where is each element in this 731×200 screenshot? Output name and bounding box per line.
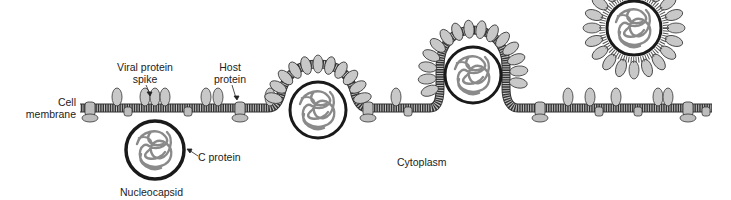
viral-spike-label-line2: spike [115,73,175,85]
cell-membrane-label-line2: membrane [20,108,76,120]
virus-budding-diagram [0,0,731,200]
nucleocapsid [126,121,184,179]
cell-membrane-label: Cell membrane [20,96,76,120]
budding-virion-2 [445,47,501,103]
viral-spike-label-line1: Viral protein [115,61,175,73]
viral-protein-spike-label: Viral protein spike [115,61,175,85]
cell-membrane-label-line1: Cell [20,96,76,108]
host-protein-label-line2: protein [210,73,250,85]
cytoplasm-label: Cytoplasm [397,156,447,168]
host-protein-label-line1: Host [210,61,250,73]
released-virion [583,0,685,79]
nucleocapsid-label: Nucleocapsid [120,186,183,198]
viral-protein-spikes [112,88,673,106]
host-protein-label: Host protein [210,61,250,85]
c-protein-label: C protein [198,151,241,163]
budding-virion-1 [290,82,346,138]
